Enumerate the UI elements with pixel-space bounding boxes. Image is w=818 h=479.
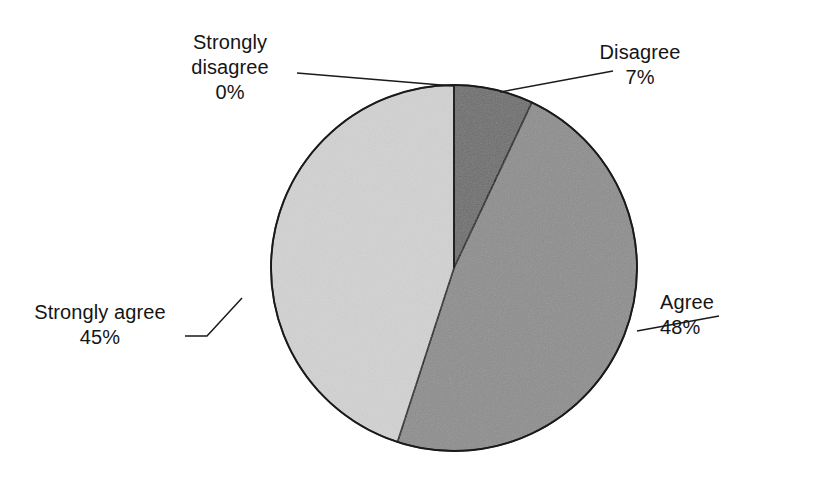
slice-value-agree: 48% bbox=[660, 315, 790, 340]
slice-label-strongly-disagree-line1: Strongly bbox=[193, 31, 267, 53]
slice-label-strongly-agree: Strongly agree 45% bbox=[10, 300, 190, 350]
slice-value-strongly-disagree: 0% bbox=[150, 80, 310, 105]
pie-chart-figure: Strongly disagree 0% Disagree 7% Agree 4… bbox=[0, 0, 818, 479]
slice-value-disagree: 7% bbox=[560, 65, 720, 90]
slice-label-disagree: Disagree 7% bbox=[560, 40, 720, 90]
slice-label-strongly-agree-line1: Strongly agree bbox=[34, 301, 165, 323]
leader-line-strongly-agree bbox=[185, 298, 242, 336]
slice-label-agree: Agree 48% bbox=[660, 290, 790, 340]
slice-value-strongly-agree: 45% bbox=[10, 325, 190, 350]
slice-label-strongly-disagree: Strongly disagree 0% bbox=[150, 30, 310, 105]
slice-label-agree-line1: Agree bbox=[660, 291, 714, 313]
slice-label-strongly-disagree-line2: disagree bbox=[191, 56, 269, 78]
leader-line-strongly-disagree bbox=[297, 73, 453, 86]
slice-label-disagree-line1: Disagree bbox=[600, 41, 681, 63]
